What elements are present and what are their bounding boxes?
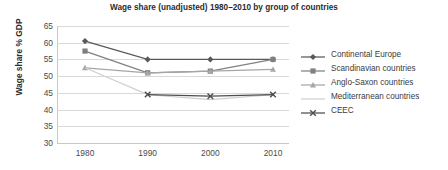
legend-marker-square-icon [300,63,326,75]
data-point-marker [82,38,88,44]
legend-item[interactable]: Mediterranean countries [300,90,448,104]
chart-legend: Continental EuropeScandinavian countries… [300,48,448,118]
y-axis-tick-label: 55 [44,54,53,64]
x-axis-tick-label: 1990 [138,148,157,158]
legend-item[interactable]: Continental Europe [300,48,448,62]
legend-item-label: Mediterranean countries [331,91,419,103]
series-plot [57,26,289,143]
legend-item[interactable]: Anglo-Saxon countries [300,76,448,90]
y-axis-tick-label: 40 [44,105,53,115]
y-axis-tick-label: 45 [44,88,53,98]
y-axis-tick-label: 65 [44,21,53,31]
chart-title: Wage share (unadjusted) 1980–2010 by gro… [0,3,448,12]
data-point-marker [310,68,315,73]
data-point-marker [145,56,151,62]
plot-area: 6560555045403530 1980199020002010 [57,26,289,143]
y-axis-tick-label: 30 [44,138,53,148]
legend-item-label: CEEC [331,105,354,117]
legend-marker-diamond-icon [300,49,326,61]
legend-item[interactable]: CEEC [300,104,448,118]
x-axis-tick-label: 1980 [76,148,95,158]
y-axis-tick-label: 35 [44,121,53,131]
data-point-marker [310,54,316,60]
gridline [57,143,289,144]
series-continental-europe [82,38,276,63]
data-point-marker [82,48,87,53]
series-anglo-saxon-countries [82,65,276,75]
chart-container: Wage share (unadjusted) 1980–2010 by gro… [0,0,448,170]
legend-item-label: Anglo-Saxon countries [331,77,413,89]
legend-marker-none-icon [300,91,326,103]
series-line [85,41,273,59]
data-point-marker [270,57,275,62]
legend-item-label: Scandinavian countries [331,63,416,75]
y-axis-tick-label: 60 [44,38,53,48]
data-point-marker [207,56,213,62]
legend-marker-x-icon [300,105,326,117]
x-axis-tick-label: 2000 [201,148,220,158]
series-line [85,68,273,73]
legend-item-label: Continental Europe [331,49,401,61]
x-axis-tick-label: 2010 [264,148,283,158]
y-axis-tick-label: 50 [44,71,53,81]
series-ceec [145,92,276,99]
legend-item[interactable]: Scandinavian countries [300,62,448,76]
y-axis-title: Wage share % GDP [14,12,24,102]
legend-marker-triangle-icon [300,77,326,89]
